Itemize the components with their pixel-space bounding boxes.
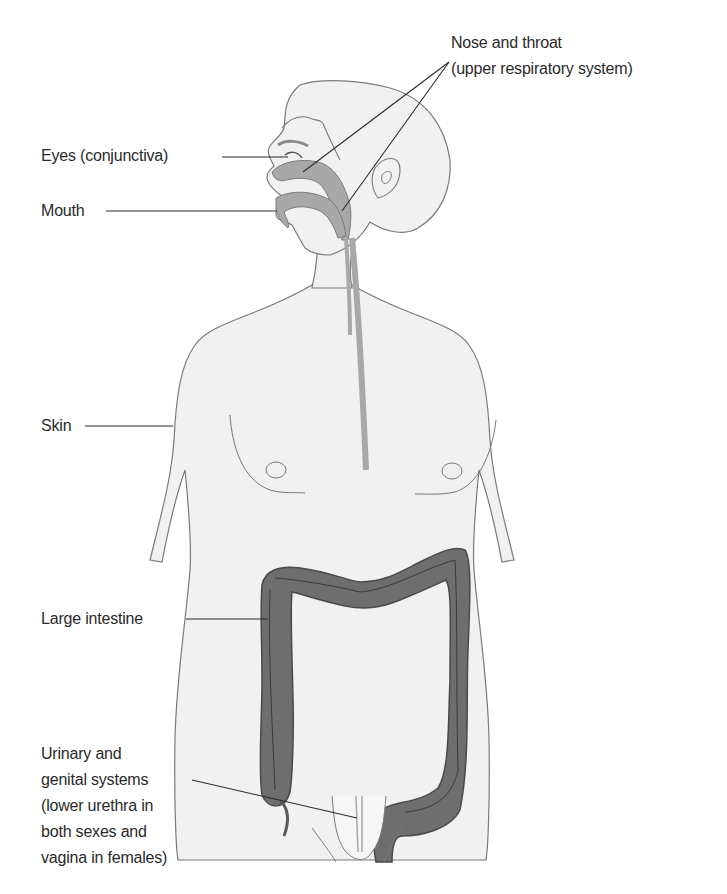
label-urogenital-line3: (lower urethra in [41, 793, 153, 819]
label-nose-throat-line2: (upper respiratory system) [451, 56, 633, 82]
anatomy-diagram: Nose and throat (upper respiratory syste… [0, 0, 727, 894]
label-nose-throat-line1: Nose and throat [451, 30, 562, 56]
label-urogenital-line2: genital systems [41, 767, 148, 793]
label-eyes: Eyes (conjunctiva) [41, 143, 168, 169]
label-urogenital-line1: Urinary and [41, 741, 122, 767]
label-large-intestine: Large intestine [41, 606, 143, 632]
label-urogenital-line4: both sexes and [41, 819, 147, 845]
label-mouth: Mouth [41, 198, 84, 224]
label-skin: Skin [41, 413, 71, 439]
label-urogenital-line5: vagina in females) [41, 845, 167, 871]
